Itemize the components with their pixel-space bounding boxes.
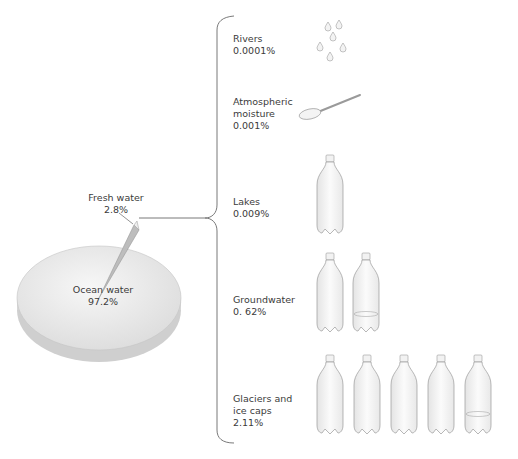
water-drops-icon — [317, 20, 346, 61]
ocean-water-name: Ocean water — [58, 284, 148, 296]
groundwater-name: Groundwater — [233, 294, 295, 306]
lakes-name: Lakes — [233, 196, 269, 208]
glaciers-name-line1: Glaciers and — [233, 393, 292, 405]
groundwater-value: 0. 62% — [233, 306, 295, 318]
atmospheric-moisture-label: Atmospheric moisture 0.001% — [233, 96, 293, 132]
glaciers-label: Glaciers and ice caps 2.11% — [233, 393, 292, 429]
glaciers-value: 2.11% — [233, 417, 292, 429]
lakes-value: 0.009% — [233, 208, 269, 220]
ocean-water-label: Ocean water 97.2% — [58, 284, 148, 308]
glaciers-bottles — [317, 355, 491, 434]
atmospheric-name-line2: moisture — [233, 108, 293, 120]
atmospheric-value: 0.001% — [233, 120, 293, 132]
lakes-label: Lakes 0.009% — [233, 196, 269, 220]
fresh-water-name: Fresh water — [76, 192, 156, 204]
spoon-icon — [298, 95, 360, 121]
rivers-name: Rivers — [233, 33, 275, 45]
diagram-graphics — [0, 0, 518, 459]
fresh-water-label: Fresh water 2.8% — [76, 192, 156, 216]
groundwater-bottles — [317, 253, 379, 332]
atmospheric-name-line1: Atmospheric — [233, 96, 293, 108]
rivers-label: Rivers 0.0001% — [233, 33, 275, 57]
glaciers-name-line2: ice caps — [233, 405, 292, 417]
ocean-water-value: 97.2% — [58, 296, 148, 308]
rivers-value: 0.0001% — [233, 45, 275, 57]
lakes-bottles — [317, 155, 343, 234]
fresh-water-value: 2.8% — [76, 204, 156, 216]
bracket-lines — [139, 16, 234, 443]
groundwater-label: Groundwater 0. 62% — [233, 294, 295, 318]
